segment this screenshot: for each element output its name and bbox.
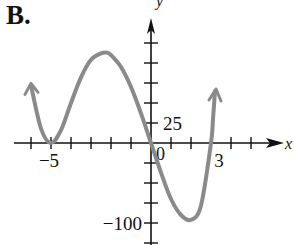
x-tick-label: 3: [214, 150, 224, 171]
x-axis-label: x: [284, 135, 292, 152]
y-tick-label: 25: [163, 113, 182, 134]
graph: 0−5325−100xy: [0, 0, 294, 245]
y-tick-label: −100: [103, 213, 142, 234]
function-curve: [31, 52, 215, 220]
x-tick-label: −5: [39, 150, 59, 171]
y-axis-label: y: [154, 0, 164, 10]
